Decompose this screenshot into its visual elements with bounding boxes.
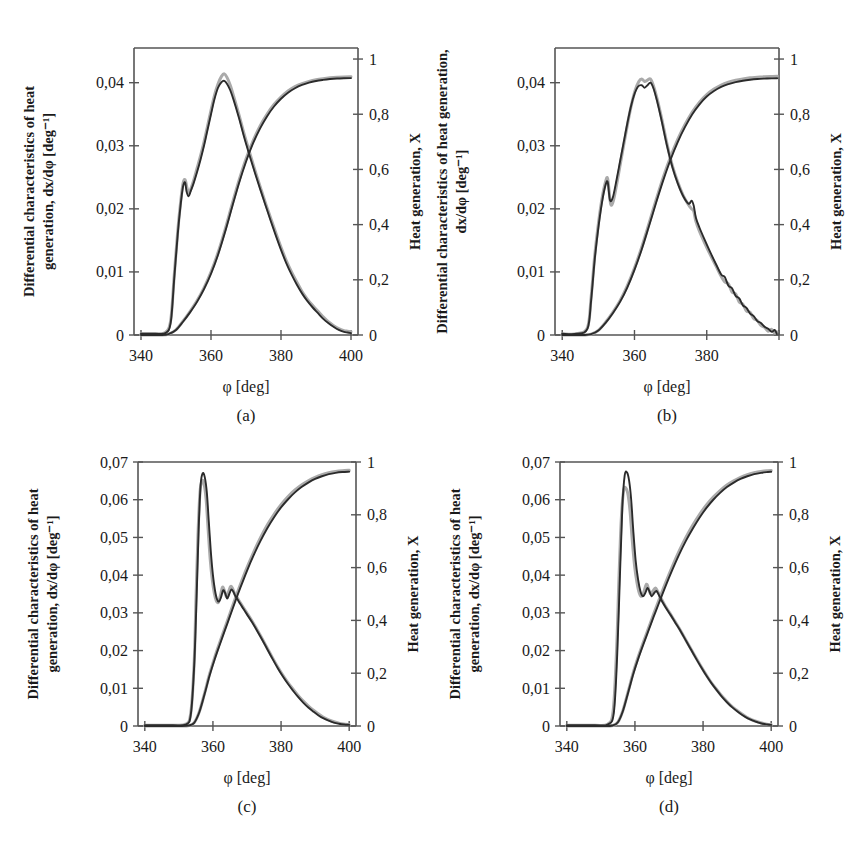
ytick-label-right-c-4: 0,8	[367, 506, 387, 523]
curve-d-2	[567, 472, 771, 726]
yaxis-title-right-c: Heat generation, X	[405, 535, 421, 653]
chart-d: 00,010,020,030,040,050,060,0700,20,40,60…	[427, 429, 854, 858]
axes-frame	[138, 462, 356, 726]
ytick-label-right-a-4: 0,8	[369, 106, 389, 123]
ytick-label-left-a-4: 0,04	[96, 74, 124, 91]
panel-caption-a: (a)	[237, 406, 256, 425]
yaxis-title-left-line2-b: dx/dφ [deg⁻¹]	[453, 150, 469, 234]
panel-c: 00,010,020,030,040,050,060,0700,20,40,60…	[0, 429, 427, 858]
curve-d-0	[567, 471, 771, 725]
ytick-label-right-d-0: 0	[789, 718, 797, 735]
ytick-label-left-d-3: 0,03	[522, 604, 550, 621]
yaxis-title-left-line2-a: generation, dx/dφ [deg⁻¹]	[40, 113, 56, 270]
curve-b-0	[562, 83, 777, 334]
xaxis-title-a: φ [deg]	[223, 378, 270, 396]
ytick-label-left-d-4: 0,04	[522, 567, 550, 584]
ytick-label-left-d-0: 0	[542, 718, 550, 735]
ytick-label-left-c-2: 0,02	[100, 642, 128, 659]
ytick-label-right-b-4: 0,8	[790, 106, 810, 123]
ytick-label-left-a-2: 0,02	[96, 200, 124, 217]
ytick-label-left-d-5: 0,05	[522, 529, 550, 546]
xtick-label-d-0: 340	[555, 738, 579, 755]
xtick-label-b-1: 360	[622, 347, 646, 364]
xaxis-title-d: φ [deg]	[646, 769, 693, 787]
ytick-label-left-c-6: 0,06	[100, 491, 128, 508]
xtick-label-a-1: 360	[199, 347, 223, 364]
yaxis-title-right-a: Heat generation, X	[407, 132, 423, 250]
xtick-label-d-2: 380	[691, 738, 715, 755]
axes-frame	[555, 48, 779, 335]
curve-b-3	[562, 76, 777, 335]
axes-frame	[134, 48, 358, 335]
ytick-label-right-d-5: 1	[789, 454, 797, 471]
ytick-label-left-c-5: 0,05	[100, 529, 128, 546]
ytick-label-left-d-1: 0,01	[522, 680, 550, 697]
curve-c-3	[145, 470, 349, 726]
xtick-label-c-2: 380	[269, 738, 293, 755]
xtick-label-c-3: 400	[337, 738, 361, 755]
chart-b: 00,010,020,030,0400,20,40,60,81340360380…	[427, 0, 854, 429]
axes-frame	[560, 462, 778, 726]
panel-caption-d: (d)	[659, 797, 679, 816]
ytick-label-left-d-2: 0,02	[522, 642, 550, 659]
ytick-label-right-c-5: 1	[367, 454, 375, 471]
ytick-label-left-b-4: 0,04	[517, 74, 545, 91]
yaxis-title-right-d: Heat generation, X	[827, 535, 843, 653]
ytick-label-right-b-1: 0,2	[790, 271, 810, 288]
ytick-label-right-c-2: 0,4	[367, 612, 387, 629]
panel-a: 00,010,020,030,0400,20,40,60,81340360380…	[0, 0, 427, 429]
ytick-label-right-a-1: 0,2	[369, 271, 389, 288]
xtick-label-c-0: 340	[133, 738, 157, 755]
ytick-label-right-d-2: 0,4	[789, 612, 809, 629]
ytick-label-right-b-0: 0	[790, 327, 798, 344]
yaxis-title-left-line1-b: Differential characteristics of heat gen…	[434, 49, 450, 334]
ytick-label-right-d-1: 0,2	[789, 665, 809, 682]
curve-c-2	[145, 472, 349, 726]
ytick-label-left-c-0: 0	[120, 718, 128, 735]
panel-caption-b: (b)	[657, 406, 677, 425]
ytick-label-left-b-3: 0,03	[517, 137, 545, 154]
chart-a: 00,010,020,030,0400,20,40,60,81340360380…	[0, 0, 427, 429]
xaxis-title-c: φ [deg]	[224, 769, 271, 787]
ytick-label-left-d-6: 0,06	[522, 491, 550, 508]
figure-container: 00,010,020,030,0400,20,40,60,81340360380…	[0, 0, 854, 858]
yaxis-title-left-line1-d: Differential characteristics of heat	[447, 488, 463, 699]
ytick-label-right-d-3: 0,6	[789, 559, 809, 576]
ytick-label-left-c-1: 0,01	[100, 680, 128, 697]
ytick-label-right-c-3: 0,6	[367, 559, 387, 576]
yaxis-title-right-b: Heat generation, X	[828, 132, 844, 250]
curve-b-2	[562, 78, 777, 335]
ytick-label-left-c-7: 0,07	[100, 454, 128, 471]
xtick-label-a-2: 380	[269, 347, 293, 364]
ytick-label-left-c-3: 0,03	[100, 604, 128, 621]
curve-c-1	[145, 480, 349, 725]
curve-a-0	[141, 81, 351, 334]
ytick-label-right-d-4: 0,8	[789, 506, 809, 523]
ytick-label-left-c-4: 0,04	[100, 567, 128, 584]
xtick-label-d-1: 360	[623, 738, 647, 755]
ytick-label-right-c-0: 0	[367, 718, 375, 735]
ytick-label-right-a-2: 0,4	[369, 216, 389, 233]
xtick-label-b-2: 380	[695, 347, 719, 364]
ytick-label-left-b-2: 0,02	[517, 200, 545, 217]
ytick-label-right-a-0: 0	[369, 327, 377, 344]
yaxis-title-left-line2-d: generation, dx/dφ [deg⁻¹]	[466, 515, 482, 672]
curve-c-0	[145, 473, 349, 726]
panel-caption-c: (c)	[238, 797, 257, 816]
ytick-label-left-a-3: 0,03	[96, 137, 124, 154]
ytick-label-right-c-1: 0,2	[367, 665, 387, 682]
yaxis-title-left-line2-c: generation, dx/dφ [deg⁻¹]	[44, 515, 60, 672]
xtick-label-a-0: 340	[129, 347, 153, 364]
yaxis-title-left-line1-a: Differential characteristics of heat	[21, 86, 37, 297]
xaxis-title-b: φ [deg]	[644, 378, 691, 396]
ytick-label-right-b-2: 0,4	[790, 216, 810, 233]
curve-b-1	[562, 79, 777, 335]
ytick-label-right-a-5: 1	[369, 51, 377, 68]
panel-d: 00,010,020,030,040,050,060,0700,20,40,60…	[427, 429, 854, 858]
xtick-label-c-1: 360	[201, 738, 225, 755]
ytick-label-right-b-3: 0,6	[790, 161, 810, 178]
ytick-label-left-d-7: 0,07	[522, 454, 550, 471]
xtick-label-b-0: 340	[550, 347, 574, 364]
ytick-label-left-a-1: 0,01	[96, 263, 124, 280]
xtick-label-a-3: 400	[339, 347, 363, 364]
